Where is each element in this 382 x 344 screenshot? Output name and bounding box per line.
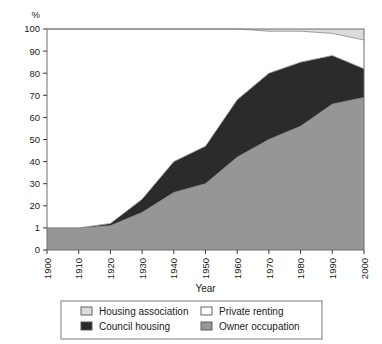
legend-label-council-housing: Council housing: [99, 321, 170, 332]
legend-label-housing-association: Housing association: [99, 306, 189, 317]
legend-label-private-renting: Private renting: [219, 306, 283, 317]
y-tick-label-0: 0: [35, 244, 40, 255]
chart-legend: Housing associationPrivate rentingCounci…: [61, 301, 322, 339]
y-axis-unit-label: %: [32, 9, 41, 20]
y-tick-label-50: 50: [29, 134, 40, 145]
x-tick-label-1910: 1910: [73, 258, 84, 279]
x-tick-label-1980: 1980: [295, 258, 306, 279]
x-tick-label-1950: 1950: [200, 258, 211, 279]
legend-swatch-housing-association: [81, 307, 92, 315]
y-tick-label-40: 40: [29, 156, 40, 167]
y-tick-label-20: 20: [29, 200, 40, 211]
x-tick-label-2000: 2000: [359, 258, 370, 279]
y-tick-label-80: 80: [29, 68, 40, 79]
legend-label-owner-occupation: Owner occupation: [219, 321, 300, 332]
y-tick-label-10: 1: [35, 222, 40, 233]
x-tick-label-1940: 1940: [168, 258, 179, 279]
legend-swatch-council-housing: [81, 322, 92, 330]
housing-tenure-area-chart: 012030405060708090100%190019101920193019…: [0, 0, 382, 344]
y-tick-label-60: 60: [29, 112, 40, 123]
x-axis-title: Year: [195, 283, 216, 294]
x-tick-label-1990: 1990: [327, 258, 338, 279]
legend-swatch-private-renting: [201, 307, 212, 315]
y-tick-label-100: 100: [24, 23, 40, 34]
x-tick-label-1900: 1900: [42, 258, 53, 279]
x-tick-label-1970: 1970: [264, 258, 275, 279]
legend-swatch-owner-occupation: [201, 322, 212, 330]
chart-canvas: 012030405060708090100%190019101920193019…: [0, 0, 382, 344]
x-tick-label-1930: 1930: [137, 258, 148, 279]
y-tick-label-70: 70: [29, 90, 40, 101]
y-tick-label-30: 30: [29, 178, 40, 189]
x-tick-label-1920: 1920: [105, 258, 116, 279]
y-tick-label-90: 90: [29, 46, 40, 57]
x-tick-label-1960: 1960: [232, 258, 243, 279]
plot-area: [47, 29, 364, 250]
